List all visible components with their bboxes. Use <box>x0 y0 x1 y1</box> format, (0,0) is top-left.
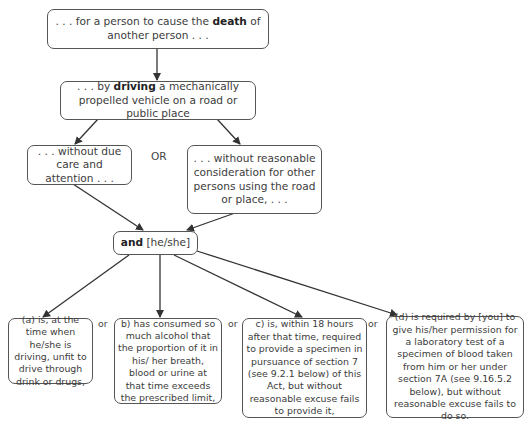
arrow-due-care-to-and <box>73 184 143 230</box>
arrow-driving-to-consideration <box>217 119 240 144</box>
arrow-and-to-d <box>197 251 397 315</box>
node-and-post: [he/she] <box>143 236 190 248</box>
node-b: b) has consumed so much alcohol that the… <box>114 318 222 404</box>
label-or-upper: OR <box>151 150 167 162</box>
node-consideration: . . . without reasonable consideration f… <box>187 145 322 214</box>
node-driving-bold: driving <box>114 80 156 92</box>
node-death: . . . for a person to cause the death of… <box>47 9 269 49</box>
node-driving: . . . by driving a mechanically propelle… <box>60 81 256 120</box>
node-c: c) is, within 18 hours after that time, … <box>242 318 367 418</box>
arrow-driving-to-due-care <box>75 119 98 144</box>
node-death-bold: death <box>212 15 247 27</box>
node-d-text: (d) is required by [you] to give his/her… <box>390 311 520 423</box>
label-or-bc: or <box>228 318 238 329</box>
arrow-consideration-to-and <box>187 213 235 230</box>
arrow-and-to-a <box>43 255 129 317</box>
node-death-pre: . . . for a person to cause the <box>56 15 213 27</box>
label-or-cd: or <box>368 318 378 329</box>
node-b-text: b) has consumed so much alcohol that the… <box>118 318 218 405</box>
node-d: (d) is required by [you] to give his/her… <box>386 316 524 418</box>
node-a: (a) is, at the time when he/she is drivi… <box>8 318 93 384</box>
node-a-text: (a) is, at the time when he/she is drivi… <box>12 314 89 388</box>
node-and-bold: and <box>121 236 143 248</box>
node-and: and [he/she] <box>113 231 198 255</box>
node-driving-pre: . . . by <box>77 80 114 92</box>
node-c-text: c) is, within 18 hours after that time, … <box>246 318 363 417</box>
label-or-ab: or <box>98 318 108 329</box>
node-due-care-text: . . . without due care and attention . .… <box>32 145 127 186</box>
node-due-care: . . . without due care and attention . .… <box>27 145 132 185</box>
node-consideration-text: . . . without reasonable consideration f… <box>192 152 317 206</box>
